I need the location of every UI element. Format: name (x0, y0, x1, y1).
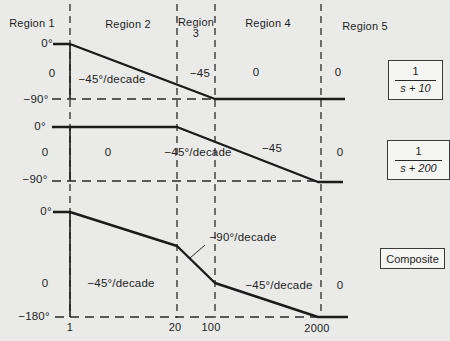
bottom-zone2-slope: −45°/decade (87, 277, 154, 289)
composite-box: Composite (380, 248, 445, 269)
fraction-numerator: 1 (395, 145, 441, 161)
region-1-label: Region 1 (9, 17, 55, 29)
bottom-plot-0deg-label: 0° (40, 205, 51, 217)
top-zone1-value: 0 (49, 67, 56, 79)
top-zone2-slope: −45°/decade (78, 73, 145, 85)
middle-zone2-value: 0 (105, 146, 112, 158)
transfer-function-box-s10: 1 s + 10 (388, 60, 443, 100)
x-tick-100: 100 (202, 321, 221, 333)
x-tick-2000: 2000 (304, 322, 329, 334)
top-plot-minus90-label: −90° (24, 93, 49, 105)
composite-box-label: Composite (386, 253, 439, 265)
middle-zone1-value: 0 (42, 146, 49, 158)
top-zone4-value: 0 (253, 66, 260, 78)
diagram-canvas (0, 0, 450, 341)
bode-phase-diagram: Region 1 Region 2 Region 3 Region 4 Regi… (0, 0, 450, 341)
fraction-denominator: s + 200 (395, 161, 441, 176)
fraction-s200: 1 s + 200 (395, 145, 441, 176)
x-tick-20: 20 (169, 321, 182, 333)
phase-curve-composite (53, 212, 348, 317)
middle-zone3-slope: −45°/decade (164, 146, 231, 158)
bottom-plot-minus180-label: −180° (18, 310, 50, 322)
region-2-label: Region 2 (105, 18, 151, 30)
fraction-s10: 1 s + 10 (395, 65, 435, 96)
fraction-numerator: 1 (395, 65, 435, 81)
region-4-label: Region 4 (245, 17, 291, 29)
middle-zone4-slope: −45 (262, 142, 282, 154)
top-zone5-value: 0 (335, 66, 342, 78)
slope-callout-line (190, 245, 205, 258)
region-5-label: Region 5 (342, 20, 388, 32)
bottom-zone4-slope: −45°/decade (245, 279, 312, 291)
bottom-zone3-slope: −90°/decade (209, 231, 276, 243)
transfer-function-box-s200: 1 s + 200 (387, 140, 450, 180)
fraction-denominator: s + 10 (395, 81, 435, 96)
region-3-label-line2: 3 (193, 27, 199, 39)
top-zone3-slope: −45 (190, 67, 210, 79)
middle-plot-minus90-label: −90° (23, 173, 48, 185)
top-plot-0deg-label: 0° (41, 37, 52, 49)
x-tick-1: 1 (67, 321, 73, 333)
bottom-zone5-value: 0 (337, 279, 344, 291)
middle-plot-0deg-label: 0° (34, 120, 45, 132)
bottom-zone1-value: 0 (42, 277, 49, 289)
middle-zone5-value: 0 (337, 146, 344, 158)
